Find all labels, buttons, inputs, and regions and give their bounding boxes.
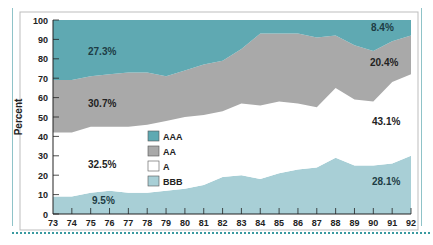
x-tick-label: 80 xyxy=(180,218,190,228)
legend-swatch-a xyxy=(148,161,159,171)
x-tick-label: 91 xyxy=(387,218,397,228)
y-tick-label: 100 xyxy=(33,16,48,26)
y-tick-label: 20 xyxy=(38,171,48,181)
legend-swatch-bbb xyxy=(148,176,159,186)
x-tick-label: 83 xyxy=(236,218,246,228)
x-tick-label: 75 xyxy=(86,218,96,228)
x-tick-label: 85 xyxy=(274,218,284,228)
annotation-aa-start: 30.7% xyxy=(88,98,116,109)
y-tick-label: 60 xyxy=(38,93,48,103)
x-tick-label: 92 xyxy=(406,218,416,228)
y-tick-label: 90 xyxy=(38,35,48,45)
x-tick-label: 77 xyxy=(123,218,133,228)
legend-swatch-aaa xyxy=(148,131,159,141)
annotation-a-end: 43.1% xyxy=(372,116,400,127)
x-tick-label: 73 xyxy=(48,218,58,228)
legend-swatch-aa xyxy=(148,146,159,156)
x-tick-label: 89 xyxy=(349,218,359,228)
x-tick-label: 79 xyxy=(161,218,171,228)
x-tick-label: 76 xyxy=(105,218,115,228)
y-axis-label: Percent xyxy=(13,98,24,135)
stacked-area-chart: 0102030405060708090100 73747576777879808… xyxy=(0,0,433,245)
y-tick-label: 70 xyxy=(38,74,48,84)
x-tick-label: 86 xyxy=(293,218,303,228)
annotation-aa-end: 20.4% xyxy=(370,57,398,68)
x-tick-label: 87 xyxy=(312,218,322,228)
y-tick-label: 40 xyxy=(38,132,48,142)
x-tick-label: 78 xyxy=(142,218,152,228)
legend-label-bbb: BBB xyxy=(163,177,183,187)
x-tick-label: 74 xyxy=(67,218,77,228)
annotation-bbb-start: 9.5% xyxy=(92,195,115,206)
x-tick-label: 88 xyxy=(331,218,341,228)
legend-label-aaa: AAA xyxy=(163,132,183,142)
x-tick-label: 81 xyxy=(199,218,209,228)
y-tick-label: 80 xyxy=(38,54,48,64)
y-tick-label: 50 xyxy=(38,113,48,123)
x-tick-label: 90 xyxy=(368,218,378,228)
y-tick-label: 10 xyxy=(38,190,48,200)
annotation-a-start: 32.5% xyxy=(88,159,116,170)
annotation-bbb-end: 28.1% xyxy=(372,176,400,187)
annotation-aaa-end: 8.4% xyxy=(371,22,394,33)
legend-label-a: A xyxy=(163,162,170,172)
x-tick-label: 82 xyxy=(218,218,228,228)
legend-label-aa: AA xyxy=(163,147,176,157)
annotation-aaa-start: 27.3% xyxy=(88,46,116,57)
y-tick-label: 30 xyxy=(38,151,48,161)
x-tick-label: 84 xyxy=(255,218,265,228)
